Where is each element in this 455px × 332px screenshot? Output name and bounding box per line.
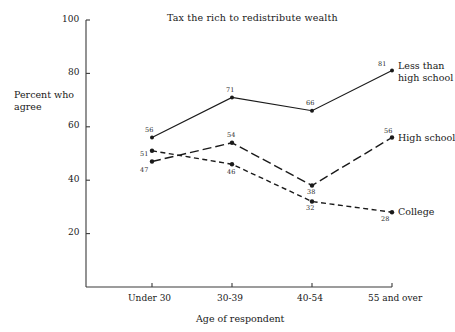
y-tick-marks bbox=[86, 20, 90, 234]
point-label-college-under-30: 51 bbox=[140, 150, 148, 158]
point-label-college-55-and-over: 28 bbox=[381, 215, 389, 223]
x-tick-label-40-54: 40-54 bbox=[297, 293, 323, 304]
point-label-hs-55-and-over: 56 bbox=[384, 127, 392, 135]
y-tick-label-100: 100 bbox=[62, 14, 79, 25]
y-axis-title-line1: Percent who bbox=[14, 89, 74, 101]
y-tick-label-80: 80 bbox=[68, 67, 79, 78]
chart-title: Tax the rich to redistribute wealth bbox=[167, 12, 338, 24]
y-tick-label-60: 60 bbox=[68, 120, 79, 131]
y-axis-title-line2: agree bbox=[14, 101, 42, 113]
series-line-less-than-high-school bbox=[152, 71, 392, 138]
x-axis-title: Age of respondent bbox=[196, 313, 284, 325]
point-label-lths-55-and-over: 81 bbox=[378, 60, 386, 68]
series-label-high-school: High school bbox=[398, 132, 455, 144]
point-label-college-40-54: 32 bbox=[306, 204, 314, 212]
point-label-lths-30-39: 71 bbox=[226, 86, 234, 94]
x-tick-label-30-39: 30-39 bbox=[217, 293, 243, 304]
point-label-lths-under-30: 56 bbox=[145, 126, 153, 134]
point-label-lths-40-54: 66 bbox=[306, 99, 314, 107]
series-label-less-than-high-school-line2: high school bbox=[398, 72, 453, 84]
point-label-hs-40-54: 38 bbox=[307, 188, 315, 196]
series-label-college: College bbox=[398, 206, 434, 218]
series-line-college bbox=[152, 151, 392, 212]
series-label-less-than-high-school-line1: Less than bbox=[398, 60, 444, 72]
point-label-college-30-39: 46 bbox=[227, 168, 235, 176]
point-label-hs-30-39: 54 bbox=[227, 131, 235, 139]
x-tick-marks bbox=[152, 283, 392, 287]
series-line-high-school bbox=[152, 138, 392, 186]
y-tick-label-40: 40 bbox=[68, 174, 79, 185]
y-tick-label-20: 20 bbox=[68, 227, 79, 238]
series-markers-high-school bbox=[150, 135, 394, 187]
x-tick-label-under-30: Under 30 bbox=[128, 293, 171, 304]
x-tick-label-55-and-over: 55 and over bbox=[368, 293, 422, 304]
point-label-hs-under-30: 47 bbox=[140, 166, 148, 174]
